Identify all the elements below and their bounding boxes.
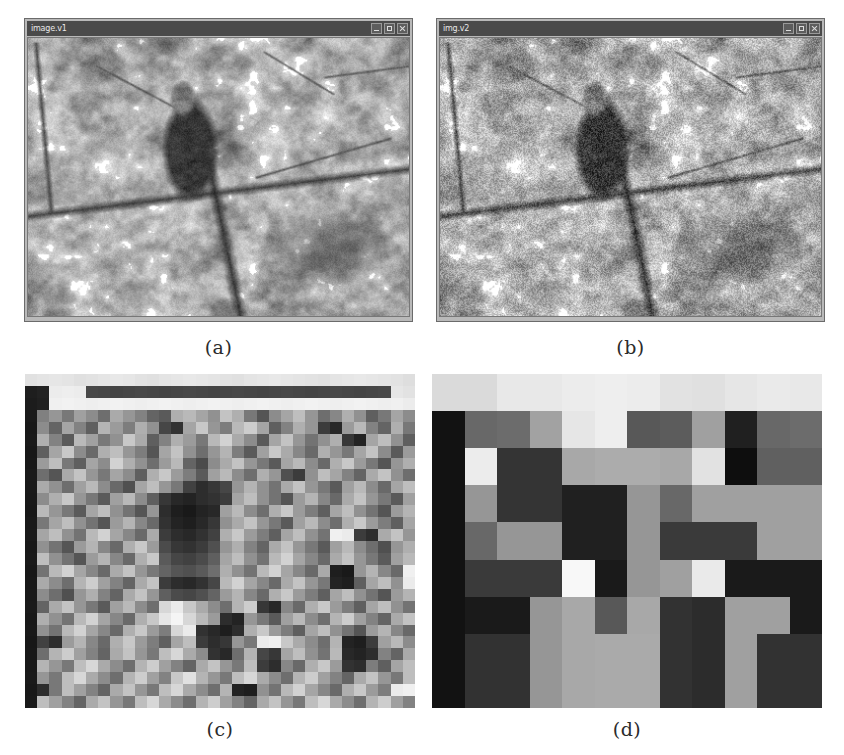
figure-grid: image.v1 (a) img.v2 bbox=[0, 0, 844, 755]
panel-caption-b: (b) bbox=[436, 336, 825, 358]
application-window-a[interactable]: image.v1 bbox=[24, 18, 413, 322]
mosaic-image-c bbox=[25, 374, 415, 708]
panel-caption-d: (d) bbox=[432, 718, 822, 740]
mosaic-image-d bbox=[432, 374, 822, 708]
panel-caption-a: (a) bbox=[24, 336, 413, 358]
window-client-area-b bbox=[439, 37, 822, 317]
figure-panel-d: (d) bbox=[432, 374, 822, 742]
panel-caption-c: (c) bbox=[25, 718, 415, 740]
window-client-area-a bbox=[27, 37, 410, 317]
bird-photograph-b bbox=[440, 38, 821, 316]
window-buttons-b bbox=[783, 23, 820, 34]
minimize-icon[interactable] bbox=[371, 23, 382, 34]
window-buttons-a bbox=[371, 23, 408, 34]
maximize-icon[interactable] bbox=[796, 23, 807, 34]
maximize-icon[interactable] bbox=[384, 23, 395, 34]
figure-panel-b: img.v2 (b) bbox=[436, 18, 825, 356]
application-window-b[interactable]: img.v2 bbox=[436, 18, 825, 322]
window-title-b: img.v2 bbox=[443, 24, 469, 33]
close-icon[interactable] bbox=[809, 23, 820, 34]
window-titlebar-b[interactable]: img.v2 bbox=[439, 21, 822, 36]
bird-photograph-a bbox=[28, 38, 409, 316]
window-titlebar-a[interactable]: image.v1 bbox=[27, 21, 410, 36]
figure-panel-a: image.v1 (a) bbox=[24, 18, 413, 356]
close-icon[interactable] bbox=[397, 23, 408, 34]
figure-panel-c: (c) bbox=[25, 374, 415, 742]
minimize-icon[interactable] bbox=[783, 23, 794, 34]
window-title-a: image.v1 bbox=[31, 24, 67, 33]
